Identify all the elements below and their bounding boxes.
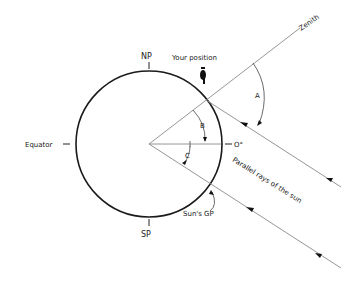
ray-arrow-4	[315, 253, 322, 258]
zero-degree-label: O°	[234, 141, 243, 149]
sp-label: SP	[141, 230, 151, 239]
parallel-rays-label: Parallel rays of the sun	[231, 156, 303, 205]
earth-sun-diagram: A B C NP SP Equator O° Your position Sun…	[0, 0, 363, 284]
your-position-label: Your position	[171, 54, 217, 62]
angle-b-arrow	[203, 137, 207, 142]
equator-label: Equator	[25, 141, 53, 149]
person-icon	[200, 67, 206, 84]
angle-c-arrow	[182, 160, 187, 165]
angle-a-arrow	[257, 120, 262, 126]
zenith-line	[149, 28, 300, 144]
np-label: NP	[141, 52, 152, 61]
angle-a-label: A	[255, 92, 260, 100]
zenith-label: Zenith	[298, 13, 321, 33]
sun-gp-label: Sun's GP	[183, 210, 214, 218]
angle-c-label: C	[185, 152, 190, 160]
angle-b-label: B	[200, 122, 205, 130]
sun-gp-arrow	[209, 190, 214, 195]
